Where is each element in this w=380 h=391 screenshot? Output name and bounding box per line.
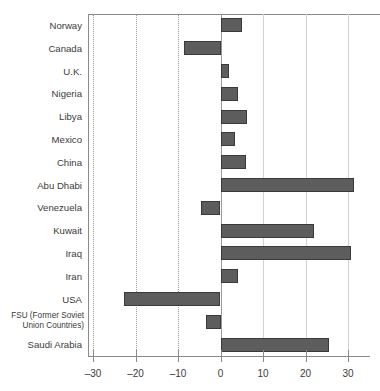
bar <box>221 178 355 192</box>
bar <box>221 246 352 260</box>
x-tick-mark <box>306 350 307 362</box>
bar <box>124 292 221 306</box>
x-tick-label: 30 <box>342 368 353 379</box>
x-tick-mark <box>221 350 222 362</box>
x-tick-label: –20 <box>127 368 144 379</box>
bar <box>221 87 239 101</box>
bar <box>221 18 242 32</box>
x-tick-mark <box>348 350 349 362</box>
bar <box>221 132 236 146</box>
bar <box>221 110 248 124</box>
chart-title-remnant <box>0 0 380 12</box>
bar <box>221 64 230 78</box>
bars-layer <box>0 14 380 356</box>
bar <box>221 224 315 238</box>
bar <box>221 338 330 352</box>
bar <box>221 269 238 283</box>
x-tick-label: 0 <box>218 368 224 379</box>
bar <box>206 315 221 329</box>
horizontal-bar-chart: NorwayCanadaU.K.NigeriaLibyaMexicoChinaA… <box>0 0 380 391</box>
x-tick-mark <box>136 350 137 362</box>
x-tick-mark <box>263 350 264 362</box>
bar <box>184 41 220 55</box>
x-tick-mark <box>178 350 179 362</box>
x-tick-mark <box>93 350 94 362</box>
bar <box>201 201 221 215</box>
x-tick-label: 20 <box>300 368 311 379</box>
x-tick-label: 10 <box>257 368 268 379</box>
bar <box>221 155 247 169</box>
x-tick-label: –30 <box>85 368 102 379</box>
x-tick-label: –10 <box>170 368 187 379</box>
x-axis-line <box>88 356 370 357</box>
